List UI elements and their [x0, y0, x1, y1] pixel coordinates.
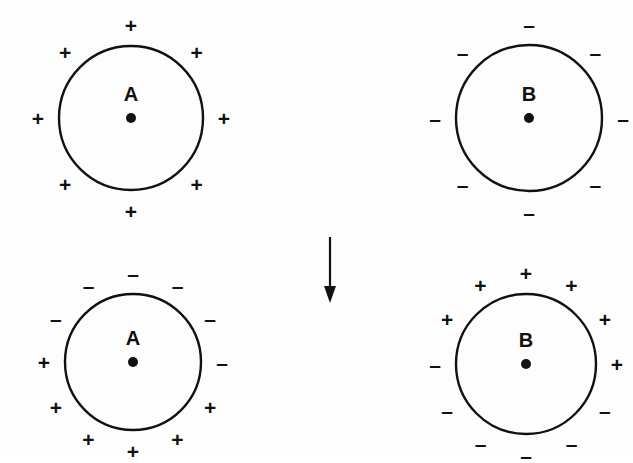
sphere-label-after-left: A — [126, 328, 140, 348]
positive-charge: + — [32, 108, 44, 129]
positive-charge: + — [171, 429, 183, 450]
positive-charge: + — [38, 352, 50, 373]
sphere-circle — [65, 294, 201, 430]
sphere-label-before-left: A — [124, 84, 138, 104]
negative-charge: – — [523, 202, 535, 223]
positive-charge: + — [59, 173, 71, 194]
negative-charge: – — [441, 399, 453, 420]
negative-charge: – — [599, 399, 611, 420]
negative-charge: – — [204, 307, 216, 328]
stage-arrow — [310, 237, 350, 315]
positive-charge: + — [565, 275, 577, 296]
positive-charge: + — [191, 42, 203, 63]
negative-charge: – — [127, 263, 139, 284]
negative-charge: – — [83, 274, 95, 295]
positive-charge: + — [50, 396, 62, 417]
negative-charge: – — [475, 432, 487, 453]
arrow-head — [324, 286, 336, 303]
negative-charge: – — [457, 41, 469, 62]
sphere-circle — [456, 294, 596, 434]
positive-charge: + — [125, 15, 137, 36]
sphere-center-dot — [126, 113, 136, 123]
negative-charge: – — [617, 108, 629, 129]
sphere-label-after-right: B — [519, 330, 533, 350]
positive-charge: + — [127, 441, 139, 462]
negative-charge: – — [457, 174, 469, 195]
sphere-circle — [456, 45, 602, 191]
negative-charge: – — [50, 307, 62, 328]
sphere-circle — [59, 46, 203, 190]
positive-charge: + — [125, 201, 137, 222]
positive-charge: + — [59, 42, 71, 63]
positive-charge: + — [82, 429, 94, 450]
negative-charge: – — [590, 41, 602, 62]
sphere-center-dot — [521, 359, 531, 369]
negative-charge: – — [216, 352, 228, 373]
sphere-label-before-right: B — [522, 84, 536, 104]
negative-charge: – — [523, 14, 535, 35]
positive-charge: + — [599, 308, 611, 329]
positive-charge: + — [441, 308, 453, 329]
positive-charge: + — [204, 396, 216, 417]
negative-charge: – — [429, 108, 441, 129]
positive-charge: + — [191, 173, 203, 194]
positive-charge: + — [218, 108, 230, 129]
positive-charge: + — [474, 275, 486, 296]
negative-charge: – — [566, 432, 578, 453]
sphere-center-dot — [524, 113, 534, 123]
negative-charge: – — [172, 274, 184, 295]
positive-charge: + — [520, 263, 532, 284]
positive-charge: + — [611, 354, 623, 375]
arrow-down-icon — [310, 237, 350, 311]
sphere-center-dot — [128, 357, 138, 367]
negative-charge: – — [520, 445, 532, 463]
negative-charge: – — [429, 354, 441, 375]
negative-charge: – — [590, 174, 602, 195]
